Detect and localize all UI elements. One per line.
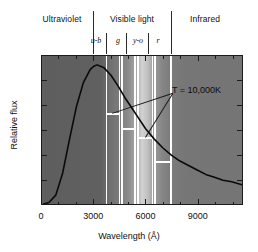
x-tick-label-9000: 9000 — [178, 211, 218, 221]
x-tick-top-6000 — [145, 55, 146, 61]
x-tick-top-8000 — [180, 55, 181, 59]
y-tick-left-5 — [41, 80, 47, 81]
x-axis-title: Wavelength (Å) — [0, 231, 258, 241]
blackbody-curve — [42, 56, 242, 204]
filter-label-y-o: y-o — [128, 36, 148, 45]
y-tick-right-4 — [237, 105, 243, 106]
x-tick-top-2000 — [76, 55, 77, 59]
x-tick-top-3000 — [93, 55, 94, 61]
x-tick-label-6000: 6000 — [125, 211, 165, 221]
x-tick-label-3000: 3000 — [73, 211, 113, 221]
x-tick-bottom-6000 — [145, 199, 146, 205]
y-tick-left-1 — [41, 180, 47, 181]
spectrum-figure: Ultraviolet Visible light Infrared u-b g… — [0, 0, 258, 252]
y-axis-title: Relative flux — [9, 80, 19, 170]
filter-divider-2 — [126, 33, 127, 54]
region-label-ultraviolet: Ultraviolet — [31, 14, 93, 24]
y-tick-right-5 — [237, 80, 243, 81]
y-tick-left-4 — [41, 105, 47, 106]
x-tick-bottom-7000 — [163, 202, 164, 206]
filter-label-r: r — [150, 36, 166, 45]
region-label-infrared: Infrared — [175, 14, 235, 24]
x-tick-top-4000 — [111, 55, 112, 59]
region-divider-visible-ir — [171, 11, 172, 54]
x-tick-top-1000 — [58, 55, 59, 59]
x-tick-bottom-4000 — [111, 202, 112, 206]
y-tick-left-3 — [41, 130, 47, 131]
x-tick-bottom-1000 — [58, 202, 59, 206]
filter-label-g: g — [110, 36, 126, 45]
y-tick-right-1 — [237, 180, 243, 181]
y-tick-left-2 — [41, 155, 47, 156]
x-tick-top-7000 — [163, 55, 164, 59]
x-tick-top-11000 — [233, 55, 234, 59]
plot-area — [41, 55, 243, 205]
region-label-visible-light: Visible light — [95, 14, 169, 24]
x-tick-bottom-2000 — [76, 202, 77, 206]
x-tick-top-10000 — [215, 55, 216, 59]
region-divider-uv-visible — [93, 11, 94, 54]
x-tick-bottom-9000 — [198, 199, 199, 205]
x-tick-label-0: 0 — [21, 211, 61, 221]
x-tick-bottom-3000 — [93, 199, 94, 205]
x-tick-top-9000 — [198, 55, 199, 61]
x-tick-bottom-5000 — [128, 202, 129, 206]
filter-divider-3 — [148, 33, 149, 54]
x-tick-bottom-8000 — [180, 202, 181, 206]
x-tick-top-5000 — [128, 55, 129, 59]
temperature-annotation: T = 10,000K — [172, 85, 221, 95]
y-tick-right-2 — [237, 155, 243, 156]
filter-label-u-b: u-b — [86, 36, 106, 45]
y-tick-right-3 — [237, 130, 243, 131]
x-tick-bottom-10000 — [215, 202, 216, 206]
filter-divider-1 — [106, 33, 107, 54]
x-tick-bottom-11000 — [233, 202, 234, 206]
